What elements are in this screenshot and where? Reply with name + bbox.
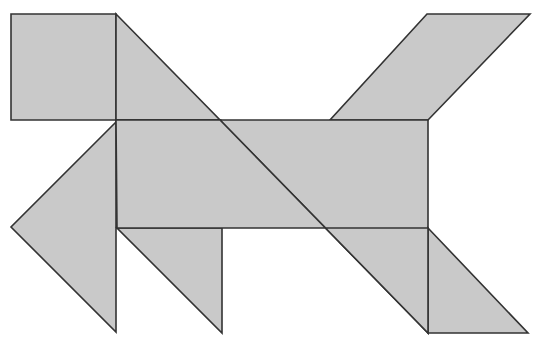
- tangram-drawing: [0, 0, 540, 346]
- tangram-canvas: [0, 0, 540, 346]
- tangram-piece-square-head: [11, 14, 116, 120]
